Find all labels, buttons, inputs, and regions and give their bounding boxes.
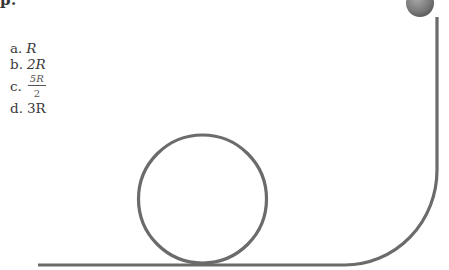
ball-icon bbox=[406, 0, 434, 17]
track-path bbox=[38, 17, 437, 265]
loop-track-diagram bbox=[0, 0, 449, 270]
loop-circle bbox=[139, 135, 267, 263]
